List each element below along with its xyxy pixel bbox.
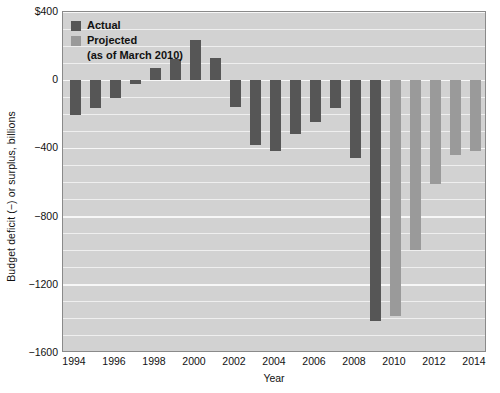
gridline	[63, 284, 485, 286]
x-axis-tick-label: 2006	[302, 355, 325, 367]
gridline	[63, 318, 485, 319]
gridline	[63, 301, 485, 302]
bar	[110, 80, 121, 98]
legend-sublabel-projected: (as of March 2010)	[87, 48, 183, 63]
gridline	[63, 250, 485, 251]
x-axis-tick-label: 2008	[342, 355, 365, 367]
y-axis-tick-label: −1600	[2, 346, 58, 358]
bar	[350, 80, 361, 158]
gridline	[63, 216, 485, 218]
bar	[70, 80, 81, 115]
bar	[150, 68, 161, 80]
plot-area: Actual Projected (as of March 2010)	[62, 11, 486, 352]
bar	[250, 80, 261, 144]
bar	[230, 80, 241, 107]
gridline	[63, 233, 485, 234]
bar	[130, 80, 141, 84]
x-axis-tick-label: 2010	[382, 355, 405, 367]
bar	[330, 80, 341, 107]
legend-item-actual: Actual	[71, 18, 183, 33]
x-axis-tick-label: 2014	[462, 355, 485, 367]
bar	[290, 80, 301, 134]
gridline	[63, 182, 485, 183]
gridline	[63, 165, 485, 166]
bar	[370, 80, 381, 321]
x-axis-tick-label: 1996	[102, 355, 125, 367]
legend-swatch-projected	[71, 36, 81, 46]
x-axis-title: Year	[62, 372, 486, 384]
y-axis-tick-label: 0	[2, 73, 58, 85]
y-axis-title: Budget deficit (−) or surplus, billions	[0, 0, 22, 393]
bar	[410, 80, 421, 250]
bar	[450, 80, 461, 155]
chart-legend: Actual Projected (as of March 2010)	[71, 18, 183, 63]
x-axis-tick-label: 2000	[182, 355, 205, 367]
x-axis-tick-label: 2004	[262, 355, 285, 367]
legend-label-projected: Projected	[87, 33, 137, 48]
gridline	[63, 335, 485, 336]
gridline	[63, 199, 485, 200]
x-axis-tick-label: 1994	[62, 355, 85, 367]
x-axis-tick-label: 2012	[422, 355, 445, 367]
x-axis-tick-label: 2002	[222, 355, 245, 367]
x-axis-tick-label: 1998	[142, 355, 165, 367]
bar	[210, 58, 221, 80]
bar	[470, 80, 481, 151]
bar	[190, 40, 201, 80]
bar	[310, 80, 321, 122]
gridline	[63, 12, 485, 14]
bar	[430, 80, 441, 184]
y-axis-tick-label: $400	[2, 5, 58, 17]
legend-label-actual: Actual	[87, 18, 121, 33]
bar	[270, 80, 281, 150]
y-axis-tick-label: −400	[2, 141, 58, 153]
legend-item-projected: Projected	[71, 33, 183, 48]
budget-deficit-bar-chart: Budget deficit (−) or surplus, billions …	[0, 0, 500, 393]
y-axis-tick-label: −800	[2, 210, 58, 222]
y-axis-tick-label: −1200	[2, 278, 58, 290]
gridline	[63, 267, 485, 268]
legend-swatch-actual	[71, 21, 81, 31]
bar	[90, 80, 101, 108]
bar	[390, 80, 401, 316]
